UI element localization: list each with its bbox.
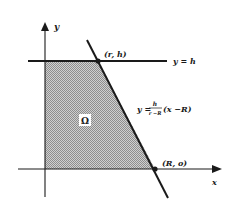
line-y-equals-h-label: y = h xyxy=(172,56,196,66)
point-R-0 xyxy=(152,166,157,171)
y-axis-label: y xyxy=(53,22,60,32)
equation-fraction-denominator: r −R xyxy=(149,110,162,116)
region-diagram: y x (r, h) (R, o) y = h y = h r −R (x −R… xyxy=(0,0,235,210)
point-R-0-label: (R, o) xyxy=(162,158,187,168)
y-axis-arrow-icon xyxy=(41,22,49,31)
point-r-h-label: (r, h) xyxy=(104,49,127,59)
x-axis-arrow-icon xyxy=(212,165,222,173)
region-omega xyxy=(45,61,155,169)
equation-fraction-numerator: h xyxy=(153,100,157,107)
region-omega-label: Ω xyxy=(81,116,89,126)
x-axis-label: x xyxy=(211,177,217,187)
point-r-h xyxy=(95,58,100,63)
equation-suffix: (x −R) xyxy=(163,104,192,114)
slanted-line-equation: y = h r −R (x −R) xyxy=(136,100,192,116)
